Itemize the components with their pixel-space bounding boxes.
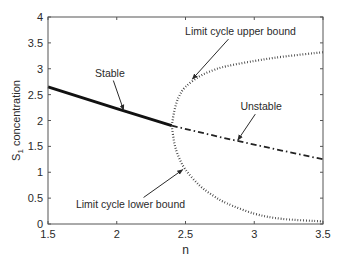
y-tick-label: 1.5 <box>28 140 43 152</box>
y-tick-label: 3.5 <box>28 37 43 49</box>
x-tick-label: 2.5 <box>178 228 193 240</box>
annotation-unstable: Unstable <box>240 100 282 112</box>
series-stable <box>48 87 172 126</box>
annotation-layer: StableLimit cycle upper boundUnstableLim… <box>76 25 296 210</box>
bifurcation-chart: StableLimit cycle upper boundUnstableLim… <box>0 0 341 266</box>
y-axis-label-rest: concentration <box>10 80 22 149</box>
y-axis-label-main: S <box>10 154 22 161</box>
y-tick-label: 2 <box>37 115 43 127</box>
annotation-arrow-icon <box>192 39 228 79</box>
annotation-limit-cycle-upper-bound: Limit cycle upper bound <box>185 25 296 37</box>
x-tick-label: 3 <box>251 228 257 240</box>
annotation-arrow-icon <box>238 114 256 140</box>
y-tick-label: 1 <box>37 166 43 178</box>
y-axis-label: S1 concentration <box>10 80 25 161</box>
annotation-limit-cycle-lower-bound: Limit cycle lower bound <box>76 198 185 210</box>
series-limit-cycle-upper-bound <box>172 52 323 125</box>
y-tick-label: 4 <box>37 11 43 23</box>
series-layer <box>48 52 323 221</box>
y-tick-label: 2.5 <box>28 89 43 101</box>
series-limit-cycle-lower-bound <box>172 126 323 222</box>
axes-layer: 1.522.533.500.511.522.533.54nS1 concentr… <box>10 11 331 257</box>
x-tick-label: 2 <box>114 228 120 240</box>
series-unstable <box>172 126 323 160</box>
y-tick-label: 3 <box>37 63 43 75</box>
annotation-arrow-icon <box>144 170 183 198</box>
x-tick-label: 3.5 <box>315 228 330 240</box>
annotation-arrow-icon <box>113 81 123 111</box>
plot-frame <box>48 17 323 224</box>
x-axis-label: n <box>182 243 189 257</box>
y-tick-label: 0 <box>37 218 43 230</box>
y-tick-label: 0.5 <box>28 192 43 204</box>
annotation-stable: Stable <box>95 67 125 79</box>
